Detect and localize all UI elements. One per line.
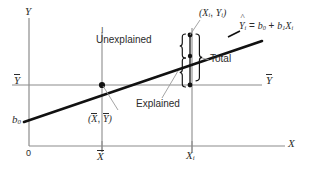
x-axis-label: X <box>288 138 295 149</box>
brackets-group <box>180 34 203 87</box>
hat-accent: ^ <box>241 13 245 22</box>
x-i-text: X <box>186 149 193 161</box>
x-mean-text: X <box>97 150 104 162</box>
mean-point-label: (X, Y) <box>88 113 112 124</box>
regression-equation-label: ^Yi = b0 + b1Xi <box>239 21 293 31</box>
explained-bracket <box>180 58 186 87</box>
unexplained-label: Unexplained <box>96 35 152 45</box>
y-mean-label-right: Y <box>266 74 272 86</box>
observed-point-leader <box>190 20 200 35</box>
y-axis-label: Y <box>25 6 31 17</box>
intercept-label: b0 <box>12 114 21 126</box>
total-bracket <box>196 34 202 81</box>
y-mean-left-text: Y <box>14 74 20 86</box>
yhat-symbol: ^Y <box>239 20 245 31</box>
x-i-axis-label: Xi <box>186 150 195 162</box>
x-i-subscript: i <box>193 154 195 161</box>
unexplained-bracket <box>180 34 186 58</box>
origin-label: 0 <box>26 149 31 158</box>
y-mean-label-left: Y <box>14 74 20 86</box>
explained-label: Explained <box>136 99 180 109</box>
regression-decomposition-figure: Y X 0 Y Y X Xi b0 (Xi, Yi) (X, Y) I Unex… <box>0 0 311 170</box>
y-mean-right-text: Y <box>266 74 272 86</box>
fitted-point-marker <box>188 54 192 58</box>
xi-subscript: i <box>291 24 293 31</box>
ymean-foot-marker <box>188 83 193 88</box>
mean-paren-close: ) <box>109 113 112 124</box>
equation-leader <box>228 31 240 37</box>
x-mean-axis-label: X <box>97 150 104 162</box>
observed-point-label: (Xi, Yi) <box>199 8 226 18</box>
reference-lines-group <box>12 28 262 152</box>
plus-sign: + <box>266 20 277 31</box>
axes-group <box>29 18 285 146</box>
intercept-subscript: 0 <box>18 118 21 125</box>
paren-close: ) <box>223 7 226 18</box>
equals-sign: = <box>246 20 257 31</box>
total-label: Total <box>210 54 231 64</box>
